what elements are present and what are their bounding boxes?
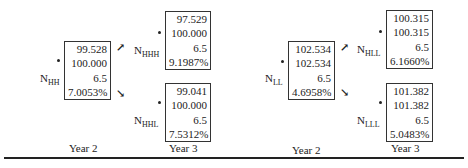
node-dot	[379, 101, 382, 104]
node-box-ll: 102.534102.5346.54.6958%	[288, 41, 335, 100]
arrow-down-right-icon: ↘	[340, 87, 349, 98]
node-dot	[158, 31, 161, 34]
node-dot	[281, 60, 284, 63]
year-label: Year 2	[292, 144, 321, 156]
arrow-up-right-icon: ↗	[340, 42, 349, 53]
node-label-ll: NLL	[265, 72, 283, 87]
node-label-hll: NHLL	[357, 43, 381, 58]
node-label-hh: NHH	[40, 72, 60, 87]
node-dot	[158, 101, 161, 104]
node-box-hhl: 99.041100.0006.57.5312%	[165, 83, 211, 142]
node-label-hhh: NHHH	[134, 44, 159, 59]
node-box-hh: 99.528100.0006.57.0053%	[64, 41, 111, 100]
arrow-up-right-icon: ↗	[116, 42, 125, 53]
divider	[4, 157, 464, 159]
year-label: Year 3	[391, 142, 420, 154]
node-box-hhh: 97.529100.0006.59.1987%	[165, 11, 211, 70]
year-label: Year 3	[169, 142, 198, 154]
node-label-hhl: NHHL	[134, 114, 158, 129]
node-label-lll: NLLL	[357, 114, 380, 129]
node-dot	[379, 30, 382, 33]
node-box-hll: 100.315100.3156.56.1660%	[386, 10, 433, 69]
year-label: Year 2	[69, 142, 98, 154]
node-dot	[57, 59, 60, 62]
node-box-lll: 101.382101.3826.55.0483%	[386, 83, 433, 142]
arrow-down-right-icon: ↘	[116, 88, 125, 99]
